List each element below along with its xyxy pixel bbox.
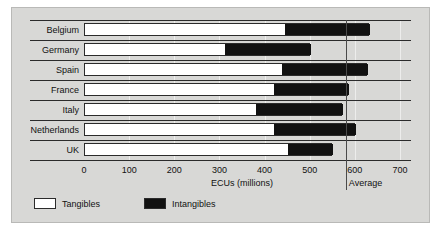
stacked-bar-italy	[84, 103, 342, 116]
x-tick-label-100: 100	[109, 165, 149, 175]
bar-row: UK	[12, 140, 431, 160]
bar-segment-tangibles	[85, 144, 288, 155]
stacked-bar-spain	[84, 63, 367, 76]
bar-row: Netherlands	[12, 120, 431, 140]
bar-segment-intangibles	[256, 104, 343, 115]
bar-segment-intangibles	[285, 24, 369, 35]
bar-row: Italy	[12, 100, 431, 120]
bar-row: France	[12, 80, 431, 100]
x-tick-label-400: 400	[245, 165, 285, 175]
bar-row: Belgium	[12, 20, 431, 40]
bar-row: Germany	[12, 40, 431, 60]
average-line	[346, 20, 347, 190]
stacked-bar-germany	[84, 43, 310, 56]
stacked-bar-belgium	[84, 23, 369, 36]
category-label-uk: UK	[11, 140, 79, 160]
category-label-netherlands: Netherlands	[11, 120, 79, 140]
legend-item-intangibles[interactable]: Intangibles	[144, 196, 216, 210]
bar-row: Spain	[12, 60, 431, 80]
chart-screenshot: BelgiumGermanySpainFranceItalyNetherland…	[0, 0, 441, 237]
bar-segment-intangibles	[274, 84, 349, 95]
bar-segment-tangibles	[85, 84, 274, 95]
category-label-germany: Germany	[11, 40, 79, 60]
stacked-bar-netherlands	[84, 123, 355, 136]
x-axis-title: ECUs (millions)	[182, 178, 302, 188]
bar-segment-intangibles	[282, 64, 368, 75]
x-tick-label-600: 600	[335, 165, 375, 175]
category-label-france: France	[11, 80, 79, 100]
legend-swatch-tangibles	[34, 198, 56, 209]
stacked-bar-france	[84, 83, 348, 96]
stacked-bar-uk	[84, 143, 332, 156]
category-label-belgium: Belgium	[11, 20, 79, 40]
chart-figure: BelgiumGermanySpainFranceItalyNetherland…	[11, 7, 430, 223]
plot-area: BelgiumGermanySpainFranceItalyNetherland…	[12, 8, 431, 224]
legend-label-tangibles: Tangibles	[62, 197, 100, 211]
bar-segment-intangibles	[225, 44, 310, 55]
x-tick-label-300: 300	[199, 165, 239, 175]
bar-segment-tangibles	[85, 24, 285, 35]
category-label-italy: Italy	[11, 100, 79, 120]
x-axis-line	[30, 160, 411, 161]
x-tick-label-500: 500	[290, 165, 330, 175]
x-tick-label-700: 700	[380, 165, 420, 175]
legend-item-tangibles[interactable]: Tangibles	[34, 196, 100, 210]
bar-segment-tangibles	[85, 44, 225, 55]
legend-label-intangibles: Intangibles	[172, 197, 216, 211]
bar-segment-intangibles	[274, 124, 356, 135]
bar-segment-intangibles	[288, 144, 333, 155]
bar-segment-tangibles	[85, 124, 274, 135]
bar-segment-tangibles	[85, 104, 256, 115]
x-tick-label-0: 0	[64, 165, 104, 175]
x-tick-label-200: 200	[154, 165, 194, 175]
legend-swatch-intangibles	[144, 198, 166, 209]
category-label-spain: Spain	[11, 60, 79, 80]
average-label: Average	[349, 178, 382, 188]
bar-segment-tangibles	[85, 64, 282, 75]
